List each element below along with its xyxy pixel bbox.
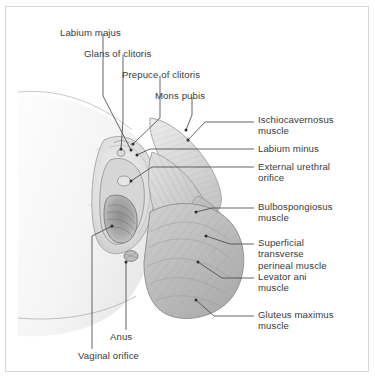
label-ischiocavernosus-muscle: Ischiocavernosus muscle	[258, 114, 334, 137]
label-vaginal-orifice: Vaginal orifice	[78, 350, 139, 361]
label-mons-pubis: Mons pubis	[155, 90, 205, 101]
label-levator-ani-muscle: Levator ani muscle	[258, 271, 307, 294]
label-labium-minus: Labium minus	[258, 143, 319, 154]
anatomical-figure: Labium majus Glans of clitoris Prepuce o…	[0, 0, 375, 390]
label-labium-majus: Labium majus	[60, 27, 121, 38]
label-glans-of-clitoris: Glans of clitoris	[84, 48, 151, 59]
glans-of-clitoris-shape	[117, 150, 125, 157]
label-anus: Anus	[110, 331, 132, 342]
leader-ischiocavernosus	[188, 122, 254, 140]
anus-shape	[124, 251, 138, 262]
leader-mons-pubis	[186, 97, 192, 130]
label-external-urethral-orifice: External urethral orifice	[258, 161, 330, 184]
label-bulbospongiosus-muscle: Bulbospongiosus muscle	[258, 201, 333, 224]
label-superficial-transverse-perineal-muscle: Superficial transverse perineal muscle	[258, 237, 327, 271]
external-urethral-orifice-shape	[118, 176, 131, 186]
label-prepuce-of-clitoris: Prepuce of clitoris	[122, 69, 200, 80]
label-gluteus-maximus-muscle: Gluteus maximus muscle	[258, 309, 334, 332]
